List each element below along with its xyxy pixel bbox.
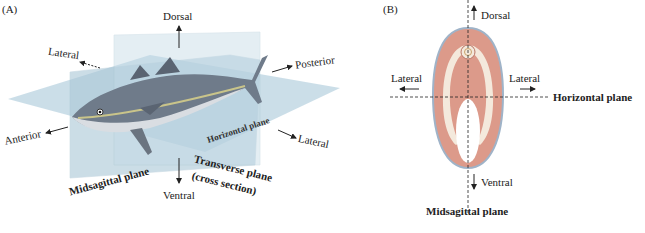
panel-a-fish-planes: (A) Dorsal Lateral Posterior Anterior La… <box>0 0 380 233</box>
panel-b-tag: (B) <box>383 4 398 15</box>
panel-b-cross-section: (B) Dorsal Lateral Lateral Horizontal pl… <box>380 0 645 233</box>
ventral-label: Ventral <box>163 190 195 201</box>
lateral-left-arrow <box>80 62 100 68</box>
dorsal-label: Dorsal <box>481 10 510 21</box>
dorsal-label: Dorsal <box>163 11 192 22</box>
posterior-arrow <box>272 66 292 72</box>
horizontal-plane-label: Horizontal plane <box>553 92 632 103</box>
ventral-label: Ventral <box>481 177 513 188</box>
lateral-right-arrow <box>278 130 296 138</box>
lateral-right-label: Lateral <box>509 73 540 84</box>
lateral-left-label: Lateral <box>391 73 422 84</box>
panel-a-tag: (A) <box>2 4 17 15</box>
midsagittal-plane-label: Midsagittal plane <box>426 206 508 217</box>
anterior-arrow <box>46 127 68 133</box>
cross-section-illustration <box>380 0 645 233</box>
